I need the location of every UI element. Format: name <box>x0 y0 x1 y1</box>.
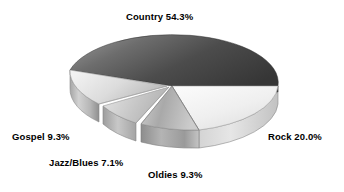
slice-label-rock: Rock 20.0% <box>268 132 322 142</box>
slice-label-oldies: Oldies 9.3% <box>148 170 202 180</box>
slice-label-country: Country 54.3% <box>126 12 193 22</box>
pie-top-faces <box>70 35 278 130</box>
slice-label-jazz-blues: Jazz/Blues 7.1% <box>49 158 123 168</box>
pie-chart-figure: Country 54.3% Rock 20.0% Oldies 9.3% Jaz… <box>0 0 344 192</box>
slice-label-gospel: Gospel 9.3% <box>12 132 70 142</box>
